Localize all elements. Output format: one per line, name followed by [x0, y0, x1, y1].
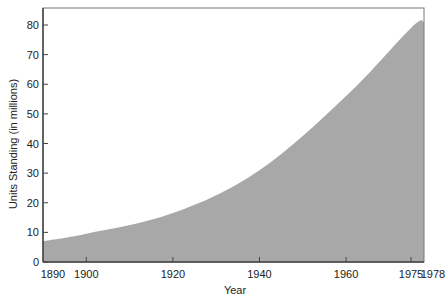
y-tick-label: 0	[33, 256, 39, 268]
x-tick-label: 1975	[399, 268, 423, 280]
y-axis-title: Units Standing (in millions)	[7, 79, 19, 209]
y-tick-label: 60	[27, 78, 39, 90]
y-tick-label: 40	[27, 138, 39, 150]
units-standing-area	[43, 20, 424, 262]
y-tick-label: 20	[27, 197, 39, 209]
x-tick-label: 1960	[334, 268, 358, 280]
x-tick-label: 1900	[74, 268, 98, 280]
x-tick-label: 1978	[421, 268, 445, 280]
y-tick-label: 50	[27, 108, 39, 120]
x-tick-label: 1890	[41, 268, 65, 280]
y-tick-label: 80	[27, 19, 39, 31]
x-tick-label: 1940	[247, 268, 271, 280]
y-axis-ticks: 01020304050607080	[27, 19, 48, 268]
area-chart: 01020304050607080 1890190019201940196019…	[0, 0, 447, 300]
x-tick-label: 1920	[161, 268, 185, 280]
y-tick-label: 30	[27, 167, 39, 179]
area-fill	[43, 20, 424, 262]
x-axis-title: Year	[224, 284, 247, 296]
y-tick-label: 10	[27, 226, 39, 238]
y-tick-label: 70	[27, 49, 39, 61]
